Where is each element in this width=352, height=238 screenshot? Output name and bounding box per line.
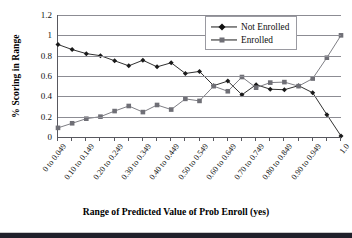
- x-axis-tick-label: 0.90 to 0.949: [289, 142, 323, 182]
- x-axis-tick-mark: [269, 137, 270, 141]
- data-point-marker: [254, 85, 259, 90]
- x-axis-tick-label: 1.0: [338, 142, 351, 156]
- figure-bottom-rule: [0, 233, 352, 238]
- x-axis-tick-mark: [340, 137, 341, 141]
- data-point-marker: [197, 99, 202, 104]
- data-point-marker: [126, 104, 131, 109]
- x-axis-tick-mark: [170, 137, 171, 141]
- y-axis-tick-label: 0: [48, 132, 53, 142]
- gridline: [58, 96, 341, 97]
- data-point-marker: [126, 63, 131, 68]
- x-axis-tick-label: 0 to 0.049: [41, 142, 68, 174]
- y-axis-tick-labels: 00.20.40.60.811.2: [26, 15, 54, 137]
- gridline: [58, 35, 341, 36]
- data-point-marker: [310, 90, 315, 95]
- data-point-marker: [70, 47, 75, 52]
- legend-marker-square-icon: [211, 35, 237, 45]
- y-axis-tick-label: 0.4: [41, 91, 52, 101]
- data-point-marker: [268, 80, 273, 85]
- chart-legend: Not Enrolled Enrolled: [205, 16, 297, 50]
- x-axis-tick-mark: [57, 137, 58, 141]
- x-axis-tick-mark: [241, 137, 242, 141]
- x-axis-tick-mark: [227, 137, 228, 141]
- x-axis-tick-mark: [85, 137, 86, 141]
- x-axis-tick-mark: [142, 137, 143, 141]
- gridline: [58, 76, 341, 77]
- data-point-marker: [155, 103, 160, 108]
- gridline: [58, 15, 341, 16]
- y-axis-title-text: % Scoring in Range: [11, 34, 21, 117]
- series-enrolled: [56, 33, 344, 130]
- y-axis-tick-label: 1: [48, 30, 53, 40]
- x-axis-tick-mark: [283, 137, 284, 141]
- series-line: [58, 35, 341, 128]
- x-axis-tick-mark: [156, 137, 157, 141]
- data-point-marker: [268, 87, 273, 92]
- x-axis-title: Range of Predicted Value of Prob Enroll …: [0, 206, 352, 217]
- y-axis-tick-label: 0.8: [41, 51, 52, 61]
- x-axis-tick-mark: [184, 137, 185, 141]
- x-axis-tick-mark: [114, 137, 115, 141]
- x-axis-tick-mark: [199, 137, 200, 141]
- x-axis-tick-mark: [312, 137, 313, 141]
- x-axis-tick-labels: 0 to 0.0490.10 to 0.1490.20 to 0.2490.30…: [57, 142, 340, 204]
- legend-marker-diamond-icon: [211, 22, 237, 32]
- x-axis-tick-mark: [298, 137, 299, 141]
- data-point-marker: [296, 84, 301, 89]
- gridline: [58, 117, 341, 118]
- y-axis-tick-label: 0.6: [41, 71, 52, 81]
- y-axis-title: % Scoring in Range: [8, 18, 24, 134]
- legend-item-not-enrolled: Not Enrolled: [211, 20, 289, 33]
- x-axis-tick-mark: [128, 137, 129, 141]
- data-point-marker: [56, 126, 61, 131]
- data-point-marker: [112, 58, 117, 63]
- data-point-marker: [140, 58, 145, 63]
- data-point-marker: [70, 121, 75, 126]
- data-point-marker: [282, 87, 287, 92]
- data-point-marker: [56, 42, 61, 47]
- data-point-marker: [282, 80, 287, 85]
- x-axis-tick-mark: [71, 137, 72, 141]
- x-axis-tick-mark: [255, 137, 256, 141]
- data-point-marker: [112, 109, 117, 114]
- data-point-marker: [141, 110, 146, 115]
- data-point-marker: [226, 89, 231, 94]
- y-axis-tick-label: 0.2: [41, 112, 52, 122]
- data-point-marker: [169, 107, 174, 112]
- data-point-marker: [155, 64, 160, 69]
- legend-label-enrolled: Enrolled: [241, 35, 273, 45]
- x-axis-tick-mark: [99, 137, 100, 141]
- x-axis-tick-mark: [213, 137, 214, 141]
- x-axis-tick-mark: [326, 137, 327, 141]
- chart-figure: % Scoring in Range 00.20.40.60.811.2 0 t…: [0, 0, 352, 238]
- y-axis-tick-label: 1.2: [41, 10, 52, 20]
- legend-label-not-enrolled: Not Enrolled: [241, 22, 289, 32]
- series-line: [58, 44, 341, 136]
- legend-item-enrolled: Enrolled: [211, 33, 289, 46]
- gridline: [58, 56, 341, 57]
- data-point-marker: [211, 84, 216, 89]
- plot-area: [57, 15, 341, 138]
